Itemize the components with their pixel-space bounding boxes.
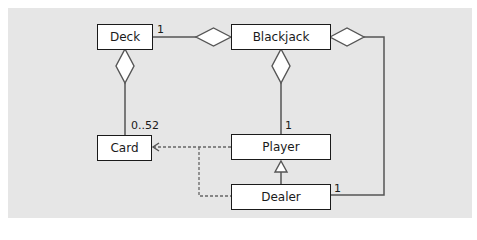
multiplicity-deck-blackjack: 1 — [157, 23, 164, 36]
class-name: Player — [262, 140, 299, 154]
class-name: Dealer — [261, 190, 301, 204]
aggregation-diamond-icon — [330, 28, 364, 46]
blackjack-dealer-line — [330, 37, 384, 195]
aggregation-diamond-icon — [116, 49, 134, 83]
generalization-triangle-icon — [275, 161, 287, 172]
class-player[interactable]: Player — [231, 134, 331, 160]
class-name: Deck — [110, 30, 140, 44]
aggregation-diamond-icon — [272, 49, 290, 83]
multiplicity-blackjack-player: 1 — [285, 119, 292, 132]
class-deck[interactable]: Deck — [97, 24, 153, 50]
class-name: Blackjack — [253, 30, 310, 44]
class-dealer[interactable]: Dealer — [231, 184, 331, 210]
class-name: Card — [110, 141, 138, 155]
multiplicity-blackjack-dealer: 1 — [334, 182, 341, 195]
class-blackjack[interactable]: Blackjack — [231, 24, 331, 50]
dealer-card-dependency — [199, 147, 231, 196]
class-card[interactable]: Card — [97, 135, 152, 161]
multiplicity-deck-card: 0..52 — [131, 119, 159, 132]
aggregation-diamond-icon — [196, 28, 231, 46]
